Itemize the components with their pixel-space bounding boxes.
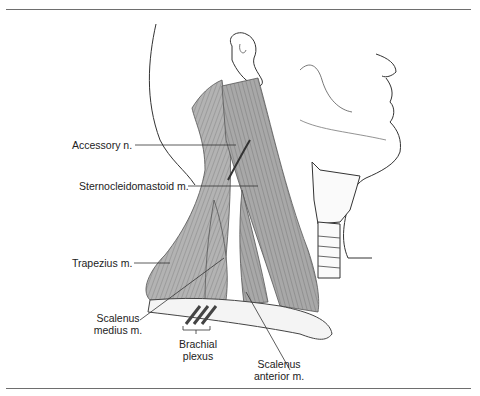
label-accessory-nerve: Accessory n. (72, 139, 132, 151)
head-outline (149, 24, 195, 185)
label-brachial-plexus: Brachial plexus (168, 338, 228, 362)
neck-anatomy-illustration (0, 0, 480, 396)
label-scalenus-medius-line2: medius m. (88, 324, 148, 336)
label-brachial-plexus-line1: Brachial (168, 338, 228, 350)
label-scalenus-anterior-line1: Scalenus (244, 358, 314, 370)
label-scalenus-medius-line1: Scalenus (88, 312, 148, 324)
bottom-rule (6, 388, 471, 389)
label-scalenus-medius: Scalenus medius m. (88, 312, 148, 336)
larynx (312, 162, 360, 224)
label-trapezius: Trapezius m. (72, 257, 132, 269)
label-sternocleidomastoid: Sternocleidomastoid m. (79, 180, 189, 192)
label-scalenus-anterior: Scalenus anterior m. (244, 358, 314, 382)
sternocleidomastoid-muscle (222, 78, 319, 312)
label-brachial-plexus-line2: plexus (168, 350, 228, 362)
label-scalenus-anterior-line2: anterior m. (244, 370, 314, 382)
trachea (318, 222, 340, 278)
